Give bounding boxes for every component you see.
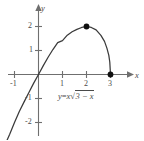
function-curve	[1, 27, 110, 141]
x-tick-label-1: 1	[60, 80, 64, 88]
x-axis-arrow-icon	[127, 71, 134, 77]
equation-annotation: y=x√3 − x	[58, 91, 94, 100]
y-tick-label-2: 2	[28, 22, 32, 30]
x-intercept-point-marker	[108, 72, 114, 78]
x-tick-label-3: 3	[108, 80, 112, 88]
y-tick-label-neg1: -1	[25, 94, 32, 102]
radical-group: √3 − x	[70, 91, 94, 100]
coordinate-plot	[0, 0, 144, 140]
y-tick-label-neg2: -2	[25, 118, 32, 126]
y-axis-label: y	[41, 4, 45, 13]
maximum-point-marker	[84, 24, 90, 30]
x-tick-label-2: 2	[84, 80, 88, 88]
y-tick-label-1: 1	[29, 46, 33, 54]
graph-figure: -1 1 2 3 2 1 -1 -2 y x y=x√3 − x	[0, 0, 144, 140]
x-tick-label-neg1: -1	[10, 80, 17, 88]
x-axis-label: x	[135, 71, 139, 80]
radicand: 3 − x	[75, 90, 95, 101]
